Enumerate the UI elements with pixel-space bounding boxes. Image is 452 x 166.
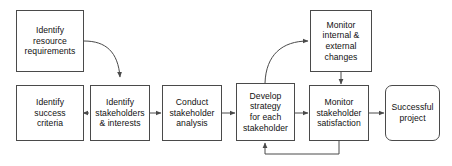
node-label-successful-project: Successful project [389, 102, 435, 123]
node-develop-strategy-for-each-stakeholder[interactable]: Develop strategy for each stakeholder [236, 83, 295, 141]
node-monitor-internal-external-changes[interactable]: Monitor internal & external changes [310, 10, 372, 72]
node-label-monitor-internal-external-changes: Monitor internal & external changes [321, 20, 362, 62]
node-identify-resource-requirements[interactable]: Identify resource requirements [16, 10, 84, 72]
node-successful-project[interactable]: Successful project [385, 85, 440, 141]
node-label-identify-resource-requirements: Identify resource requirements [23, 25, 78, 57]
node-monitor-stakeholder-satisfaction[interactable]: Monitor stakeholder satisfaction [309, 85, 369, 141]
edge-resource-to-stakeholders [84, 41, 120, 77]
node-label-monitor-stakeholder-satisfaction: Monitor stakeholder satisfaction [315, 97, 364, 129]
node-label-develop-strategy-for-each-stakeholder: Develop strategy for each stakeholder [241, 91, 290, 133]
node-label-conduct-stakeholder-analysis: Conduct stakeholder analysis [168, 97, 217, 129]
flowchart-diagram: Identify resource requirements Monitor i… [0, 0, 452, 166]
node-conduct-stakeholder-analysis[interactable]: Conduct stakeholder analysis [162, 85, 222, 141]
edge-strategy-to-monitor-changes [265, 41, 308, 83]
node-label-identify-success-criteria: Identify success criteria [32, 97, 67, 129]
node-identify-stakeholders-interests[interactable]: Identify stakeholders & interests [90, 85, 150, 141]
node-identify-success-criteria[interactable]: Identify success criteria [16, 85, 84, 141]
node-label-identify-stakeholders-interests: Identify stakeholders & interests [93, 97, 146, 129]
edge-satisfaction-feedback-to-strategy [265, 141, 339, 154]
